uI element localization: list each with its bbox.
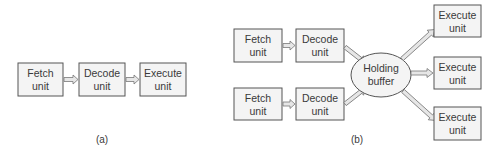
svg-text:Fetch: Fetch [245, 33, 271, 45]
pipeline-diagram: Fetch unit Decode unit Execute unit (a) … [0, 0, 497, 157]
arrow-icon [399, 26, 438, 62]
execute-unit-b-1: Execute unit [434, 5, 481, 37]
fetch-unit-b-bottom: Fetch unit [234, 88, 282, 120]
fetch-unit-a: Fetch unit [18, 63, 63, 96]
svg-text:unit: unit [449, 74, 466, 86]
caption-b: (b) [351, 134, 363, 145]
svg-text:Decode: Decode [302, 92, 338, 104]
svg-text:Execute: Execute [439, 9, 477, 21]
arrow-icon [283, 100, 295, 109]
execute-unit-b-3: Execute unit [434, 107, 481, 140]
svg-text:Execute: Execute [439, 111, 477, 123]
svg-text:Execute: Execute [439, 61, 477, 73]
diagram-a: Fetch unit Decode unit Execute unit (a) [18, 63, 186, 145]
svg-text:unit: unit [449, 22, 466, 34]
svg-text:unit: unit [94, 80, 111, 92]
decode-unit-b-bottom: Decode unit [296, 88, 344, 120]
fetch-unit-b-top: Fetch unit [234, 29, 282, 62]
arrow-icon [64, 75, 78, 84]
decode-unit-b-top: Decode unit [296, 29, 344, 62]
svg-text:unit: unit [312, 46, 329, 58]
svg-text:unit: unit [312, 105, 329, 117]
svg-text:unit: unit [250, 105, 267, 117]
svg-text:unit: unit [32, 80, 49, 92]
caption-a: (a) [96, 134, 108, 145]
arrow-icon [126, 75, 139, 84]
arrow-icon [283, 41, 295, 50]
svg-text:Decode: Decode [84, 67, 120, 79]
holding-buffer: Holding buffer [351, 53, 411, 97]
svg-text:Execute: Execute [144, 67, 182, 79]
svg-text:buffer: buffer [368, 75, 395, 87]
decode-unit-a: Decode unit [79, 63, 125, 96]
svg-text:Decode: Decode [302, 33, 338, 45]
arrow-icon [411, 69, 433, 78]
svg-text:Fetch: Fetch [245, 92, 271, 104]
svg-text:Fetch: Fetch [27, 67, 53, 79]
diagram-b: Fetch unit Decode unit Fetch unit Decode… [234, 5, 481, 145]
svg-text:Holding: Holding [363, 62, 399, 74]
svg-text:unit: unit [449, 124, 466, 136]
execute-unit-b-2: Execute unit [434, 57, 481, 89]
execute-unit-a: Execute unit [140, 63, 186, 96]
arrow-icon [400, 88, 439, 124]
svg-text:unit: unit [155, 80, 172, 92]
svg-text:unit: unit [250, 46, 267, 58]
